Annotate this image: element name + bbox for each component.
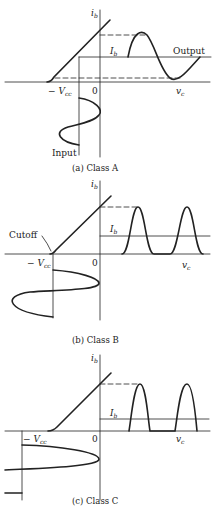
origin-label: 0 xyxy=(92,434,98,444)
characteristic-curve xyxy=(50,196,111,254)
x-axis-label: vc xyxy=(182,260,191,271)
labels-class-c: ib Ib − Vcc 0 vc (c) Class C xyxy=(23,353,185,506)
cutoff-arrow xyxy=(42,236,51,251)
x-axis-label: vc xyxy=(176,434,185,445)
bias-label: Ib xyxy=(109,408,118,419)
characteristic-curve xyxy=(47,20,110,82)
origin-label: 0 xyxy=(92,258,98,268)
vcc-label: − Vcc xyxy=(48,86,72,97)
output-label: Output xyxy=(173,46,205,56)
amplifier-classes-figure: ib Ib Output − Vcc 0 vc Input (a) Class … xyxy=(0,0,219,508)
panel-class-a xyxy=(5,10,211,157)
bias-label: Ib xyxy=(109,224,118,235)
input-waveform xyxy=(5,445,99,470)
input-label: Input xyxy=(52,148,77,158)
panel-class-c xyxy=(5,355,210,500)
origin-label: 0 xyxy=(92,86,98,96)
y-axis-label: ib xyxy=(91,179,98,190)
cutoff-label: Cutoff xyxy=(9,230,38,240)
output-pulses xyxy=(122,207,203,254)
x-axis-label: vc xyxy=(176,86,185,97)
vcc-label: − Vcc xyxy=(27,258,51,269)
input-waveform xyxy=(59,98,100,145)
characteristic-curve xyxy=(48,373,111,431)
y-axis-label: ib xyxy=(91,8,98,19)
input-waveform xyxy=(12,270,99,317)
caption: (b) Class B xyxy=(72,335,119,345)
caption: (a) Class A xyxy=(72,163,119,173)
labels-class-a: ib Ib Output − Vcc 0 vc Input (a) Class … xyxy=(48,8,205,173)
bias-label: Ib xyxy=(109,46,118,57)
panel-class-b xyxy=(5,181,210,320)
caption: (c) Class C xyxy=(72,496,118,506)
vcc-label: − Vcc xyxy=(23,434,47,445)
output-pulses xyxy=(129,384,197,431)
y-axis-label: ib xyxy=(91,353,98,364)
